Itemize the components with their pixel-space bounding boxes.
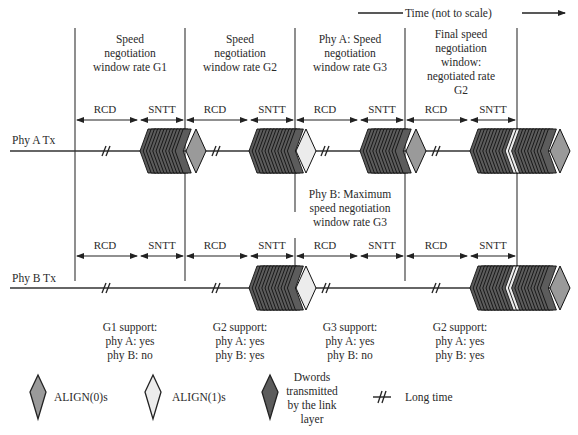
- legend-dword-label: Dwords transmitted by the link layer: [277, 370, 347, 426]
- window-label-g3: Phy A: Speed negotiation window rate G3: [295, 32, 405, 74]
- rcd-label: RCD: [411, 239, 461, 251]
- window-label-final: Final speed negotiation window: negotiat…: [405, 27, 517, 97]
- rcd-label: RCD: [80, 103, 130, 115]
- long-time-break-icon: [373, 391, 391, 403]
- dword-diamond-icon: [262, 375, 278, 419]
- phy-b-tx-label: Phy B Tx: [12, 271, 56, 285]
- rcd-label: RCD: [411, 103, 461, 115]
- align0-diamond-icon: [30, 375, 46, 419]
- sntt-label: SNTT: [468, 239, 518, 251]
- support-g3: G3 support: phy A: yes phy B: no: [305, 320, 395, 362]
- sntt-label: SNTT: [137, 103, 187, 115]
- sntt-label: SNTT: [468, 103, 518, 115]
- rcd-label: RCD: [190, 103, 240, 115]
- dword-burst: [360, 129, 426, 173]
- sntt-label: SNTT: [247, 239, 297, 251]
- support-g2: G2 support: phy A: yes phy B: yes: [195, 320, 285, 362]
- dword-burst: [249, 266, 316, 310]
- legend-long-time-label: Long time: [405, 390, 453, 404]
- dword-burst: [249, 129, 316, 173]
- sntt-label: SNTT: [357, 239, 407, 251]
- sntt-label: SNTT: [137, 239, 187, 251]
- support-final-g2: G2 support: phy A: yes phy B: yes: [415, 320, 505, 362]
- sntt-label: SNTT: [247, 103, 297, 115]
- sntt-label: SNTT: [357, 103, 407, 115]
- rcd-label: RCD: [190, 239, 240, 251]
- align1-diamond-icon: [145, 375, 161, 419]
- window-label-g1: Speed negotiation window rate G1: [75, 32, 185, 74]
- legend-align0-label: ALIGN(0)s: [54, 390, 108, 404]
- rcd-label: RCD: [300, 239, 350, 251]
- legend-align1-label: ALIGN(1)s: [172, 390, 226, 404]
- rcd-label: RCD: [300, 103, 350, 115]
- rcd-label: RCD: [80, 239, 130, 251]
- phy-b-max-rate-note: Phy B: Maximum speed negotiation window …: [290, 187, 410, 229]
- dword-burst: [470, 129, 570, 173]
- dword-burst: [140, 129, 206, 173]
- time-axis-label: Time (not to scale): [405, 6, 492, 20]
- dword-burst: [470, 266, 570, 310]
- phy-a-tx-label: Phy A Tx: [12, 133, 55, 147]
- support-g1: G1 support: phy A: yes phy B: no: [85, 320, 175, 362]
- window-label-g2: Speed negotiation window rate G2: [185, 32, 295, 74]
